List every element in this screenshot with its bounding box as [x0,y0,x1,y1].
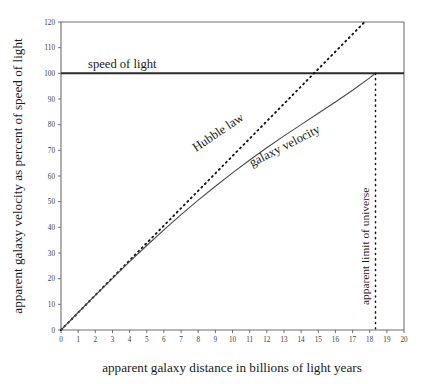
x-tick-label: 8 [196,336,200,344]
x-tick-label: 7 [179,336,183,344]
apparent-limit-label: apparent limit of universe [359,188,371,305]
hubble-law-label: Hubble law [190,110,247,155]
y-tick-label: 70 [48,147,56,155]
y-tick-label: 120 [44,19,55,27]
galaxy-velocity-curve [61,73,376,330]
x-tick-label: 11 [246,336,253,344]
y-tick-label: 80 [48,121,56,129]
y-tick-label: 100 [44,70,55,78]
x-tick-label: 9 [214,336,218,344]
x-tick-label: 19 [383,336,391,344]
y-tick-label: 60 [48,173,56,181]
x-tick-label: 14 [298,336,306,344]
x-tick-label: 4 [128,336,132,344]
x-tick-label: 0 [59,336,63,344]
x-tick-label: 17 [349,336,357,344]
x-tick-label: 5 [145,336,149,344]
x-tick-label: 2 [94,336,98,344]
x-axis-title: apparent galaxy distance in billions of … [102,360,362,375]
x-tick-label: 20 [400,336,408,344]
y-tick-labels: 0 10 20 30 40 50 60 70 80 90 100 110 120 [44,19,55,335]
y-tick-label: 0 [51,327,55,335]
x-tick-label: 16 [332,336,340,344]
velocity-distance-plot: 0 10 20 30 40 50 60 70 80 90 100 110 120 [0,0,429,384]
x-tick-label: 12 [263,336,271,344]
y-tick-label: 10 [48,301,56,309]
y-tick-label: 90 [48,96,56,104]
x-tick-label: 15 [315,336,323,344]
x-tick-labels: 0 1 2 3 4 5 6 7 8 9 10 11 12 13 14 15 16… [59,336,408,344]
speed-of-light-label: speed of light [88,57,157,71]
x-tick-label: 13 [280,336,288,344]
y-tick-label: 20 [48,275,56,283]
y-tick-label: 50 [48,198,56,206]
y-axis-title: apparent galaxy velocity as percent of s… [10,38,25,314]
chart-figure: 0 10 20 30 40 50 60 70 80 90 100 110 120 [0,0,429,384]
x-tick-label: 3 [111,336,115,344]
x-tick-label: 1 [76,336,80,344]
y-tick-label: 110 [44,44,55,52]
x-tick-marks [61,330,404,333]
x-tick-label: 10 [229,336,237,344]
y-tick-label: 30 [48,250,56,258]
x-tick-label: 6 [162,336,166,344]
x-tick-label: 18 [366,336,374,344]
y-tick-label: 40 [48,224,56,232]
